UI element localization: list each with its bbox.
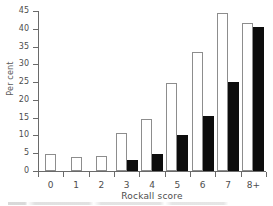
y-axis-tick-label: 15 [3, 113, 29, 122]
x-axis-tick [89, 172, 90, 177]
y-axis-tick [33, 118, 39, 119]
x-axis-tick-label: 7 [215, 180, 241, 190]
bar-open-score-4 [141, 119, 152, 171]
x-axis-tick [266, 172, 267, 177]
bar-open-score-5 [166, 83, 177, 171]
x-axis-tick [63, 172, 64, 177]
bar-filled-score-7 [228, 82, 239, 171]
y-axis-tick [33, 82, 39, 83]
x-axis-tick-label: 1 [63, 180, 89, 190]
y-axis-tick [33, 135, 39, 136]
y-axis-tick-label: 30 [3, 59, 29, 68]
y-axis-line [38, 11, 39, 172]
y-axis-tick-label: 45 [3, 6, 29, 15]
x-axis-label: Rockall score [38, 191, 266, 201]
bar-open-score-0 [45, 154, 56, 171]
caption-text-sliver [8, 202, 253, 205]
x-axis-tick-label: 2 [88, 180, 114, 190]
x-axis-tick [215, 172, 216, 177]
y-axis-tick [33, 11, 39, 12]
x-axis-tick [190, 172, 191, 177]
figure-container: Per cent 051015202530354045012345678+ Ro… [0, 0, 273, 206]
bar-filled-score-4 [152, 154, 163, 171]
plot-area: Per cent 051015202530354045012345678+ Ro… [0, 0, 273, 206]
x-axis-line [38, 171, 266, 172]
y-axis-tick-label: 25 [3, 77, 29, 86]
x-axis-tick [241, 172, 242, 177]
y-axis-tick-label: 10 [3, 130, 29, 139]
y-axis-tick-label: 5 [3, 148, 29, 157]
bar-open-score-1 [71, 157, 82, 171]
x-axis-tick-label: 5 [164, 180, 190, 190]
y-axis-tick-label: 35 [3, 42, 29, 51]
bar-open-score-7 [217, 13, 228, 171]
y-axis-tick-label: 40 [3, 24, 29, 33]
x-axis-tick [165, 172, 166, 177]
bar-filled-score-6 [203, 116, 214, 171]
y-axis-tick-label: 20 [3, 95, 29, 104]
bar-filled-score-8+ [253, 27, 264, 171]
y-axis-tick [33, 29, 39, 30]
bar-filled-score-3 [127, 160, 138, 171]
bar-filled-score-5 [177, 135, 188, 171]
x-axis-tick-label: 6 [190, 180, 216, 190]
y-axis-tick [33, 47, 39, 48]
y-axis-tick-label: 0 [3, 166, 29, 175]
x-axis-tick [38, 172, 39, 177]
x-axis-tick-label: 3 [114, 180, 140, 190]
x-axis-tick-label: 8+ [240, 180, 266, 190]
x-axis-tick-label: 4 [139, 180, 165, 190]
x-axis-tick-label: 0 [38, 180, 64, 190]
bar-open-score-2 [96, 156, 107, 171]
y-axis-tick [33, 64, 39, 65]
x-axis-tick [114, 172, 115, 177]
x-axis-tick [139, 172, 140, 177]
bar-open-score-3 [116, 133, 127, 171]
bar-open-score-6 [192, 52, 203, 171]
y-axis-tick [33, 153, 39, 154]
bar-open-score-8+ [242, 23, 253, 171]
y-axis-tick [33, 100, 39, 101]
